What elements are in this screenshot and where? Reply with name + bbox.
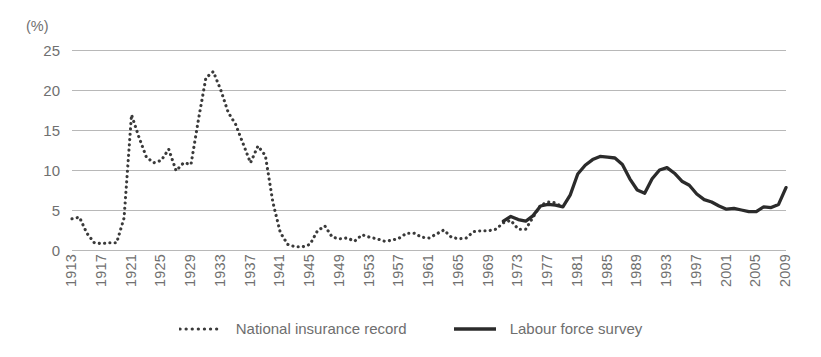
y-axis: 2520151050 (0, 50, 66, 250)
y-axis-tick-label: 5 (52, 203, 60, 218)
series-line-national-insurance-record (72, 72, 563, 247)
x-axis-tick-label: 1985 (600, 254, 615, 287)
x-axis-tick-label: 1993 (659, 254, 674, 287)
x-axis-tick-label: 2001 (719, 254, 734, 287)
legend-item-national-insurance-record: National insurance record (179, 320, 407, 337)
plot-svg (72, 50, 786, 250)
legend-label-labour-force-survey: Labour force survey (510, 320, 643, 337)
plot-area (72, 50, 786, 250)
x-axis-tick-label: 1965 (451, 254, 466, 287)
x-axis-tick-label: 1929 (183, 254, 198, 287)
x-axis-tick-label: 1917 (94, 254, 109, 287)
series-layer (72, 72, 786, 247)
x-axis-tick-label: 1941 (272, 254, 287, 287)
x-axis-tick-label: 1989 (629, 254, 644, 287)
x-axis: 1913191719211925192919331937194119451949… (72, 254, 786, 316)
gridlines (72, 50, 786, 250)
x-axis-tick-label: 2005 (748, 254, 763, 287)
x-axis-tick-label: 1973 (510, 254, 525, 287)
y-axis-unit-label: (%) (26, 18, 49, 34)
legend-label-national-insurance-record: National insurance record (236, 320, 407, 337)
x-axis-tick-label: 1953 (362, 254, 377, 287)
x-axis-tick-label: 1945 (302, 254, 317, 287)
x-axis-tick-label: 1933 (213, 254, 228, 287)
x-axis-tick-label: 1925 (153, 254, 168, 287)
y-axis-tick-label: 10 (43, 163, 60, 178)
x-axis-tick-label: 1977 (540, 254, 555, 287)
y-axis-tick-label: 0 (52, 243, 60, 258)
x-axis-tick-label: 1981 (570, 254, 585, 287)
x-axis-tick-label: 1957 (391, 254, 406, 287)
x-axis-tick-label: 1913 (64, 254, 79, 287)
series-line-labour-force-survey (503, 156, 786, 221)
x-axis-tick-label: 1969 (481, 254, 496, 287)
x-axis-tick-label: 1937 (243, 254, 258, 287)
y-axis-tick-label: 15 (43, 123, 60, 138)
chart-legend: National insurance record Labour force s… (0, 320, 821, 337)
x-axis-tick-label: 1949 (332, 254, 347, 287)
x-axis-tick-label: 2009 (778, 254, 793, 287)
legend-item-labour-force-survey: Labour force survey (453, 320, 643, 337)
chart-container: (%) 2520151050 1913191719211925192919331… (0, 0, 821, 357)
dotted-line-icon (179, 324, 223, 334)
y-axis-tick-label: 25 (43, 43, 60, 58)
x-axis-tick-label: 1961 (421, 254, 436, 287)
x-axis-tick-label: 1997 (689, 254, 704, 287)
x-axis-tick-label: 1921 (124, 254, 139, 287)
solid-line-icon (453, 324, 497, 334)
y-axis-tick-label: 20 (43, 83, 60, 98)
